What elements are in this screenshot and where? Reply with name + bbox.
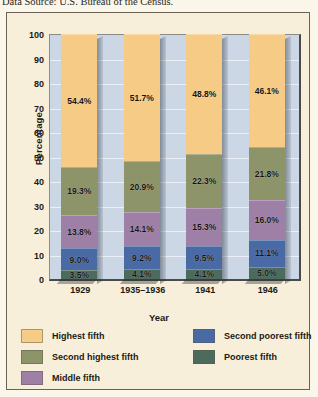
y-tick-0: 0	[39, 275, 44, 285]
bar-segment: 54.4%	[61, 34, 97, 167]
data-source-note: Data Source: U.S. Bureau of the Census.	[2, 0, 302, 10]
bar-segment: 9.5%	[186, 246, 222, 269]
bar-segment: 4.1%	[186, 269, 222, 279]
bar-segment: 9.2%	[124, 246, 160, 269]
bar-value-label: 54.4%	[67, 97, 91, 106]
legend-swatch	[21, 329, 43, 343]
bar-segment: 21.8%	[249, 147, 285, 200]
y-tick-100: 100	[29, 30, 44, 40]
bar-value-label: 9.2%	[132, 254, 151, 263]
bar-value-label: 14.1%	[130, 225, 154, 234]
bar-value-label: 20.9%	[130, 183, 154, 192]
bar-1935-1936[interactable]: 4.1%9.2%14.1%20.9%51.7%	[124, 34, 160, 279]
legend-swatch	[21, 371, 43, 385]
y-axis-ticklabels: 0102030405060708090100	[7, 34, 49, 281]
plot-area: 3.5%9.0%13.8%19.3%54.4%4.1%9.2%14.1%20.9…	[49, 34, 301, 281]
legend: Highest fifthSecond highest fifthMiddle …	[21, 326, 301, 384]
bar-value-label: 13.8%	[67, 228, 91, 237]
bar-group: 3.5%9.0%13.8%19.3%54.4%4.1%9.2%14.1%20.9…	[50, 35, 299, 279]
legend-swatch	[193, 350, 215, 364]
bar-value-label: 5.0%	[257, 269, 276, 278]
bar-segment: 4.1%	[124, 269, 160, 279]
legend-label: Second highest fifth	[52, 352, 139, 362]
y-tick-60: 60	[34, 128, 44, 138]
x-tick-label: 1946	[258, 285, 278, 295]
bar-1946[interactable]: 5.0%11.1%16.0%21.8%46.1%	[249, 34, 285, 279]
figure-frame: Percentage 0102030405060708090100 3.5%9.…	[6, 12, 310, 390]
legend-swatch	[21, 350, 43, 364]
bar-value-label: 15.3%	[192, 223, 216, 232]
legend-swatch	[193, 329, 215, 343]
y-tick-30: 30	[34, 202, 44, 212]
legend-label: Middle fifth	[52, 373, 100, 383]
legend-label: Poorest fifth	[224, 352, 277, 362]
bar-value-label: 4.1%	[195, 270, 214, 279]
bar-segment: 13.8%	[61, 215, 97, 249]
bar-value-label: 3.5%	[70, 271, 89, 280]
legend-item[interactable]: Middle fifth	[21, 368, 139, 387]
bar-segment: 9.0%	[61, 248, 97, 270]
bar-value-label: 46.1%	[255, 87, 279, 96]
bar-value-label: 4.1%	[132, 270, 151, 279]
y-tick-50: 50	[34, 153, 44, 163]
bar-segment: 22.3%	[186, 154, 222, 209]
x-tick-label: 1929	[70, 285, 90, 295]
y-tick-40: 40	[34, 177, 44, 187]
bar-segment: 15.3%	[186, 208, 222, 245]
bar-segment: 48.8%	[186, 34, 222, 154]
legend-item[interactable]: Second poorest fifth	[193, 326, 312, 345]
bar-value-label: 19.3%	[67, 187, 91, 196]
y-tick-90: 90	[34, 55, 44, 65]
bar-value-label: 9.0%	[70, 256, 89, 265]
bar-segment: 3.5%	[61, 270, 97, 279]
bar-value-label: 9.5%	[195, 254, 214, 263]
bar-1929[interactable]: 3.5%9.0%13.8%19.3%54.4%	[61, 34, 97, 279]
y-tick-80: 80	[34, 79, 44, 89]
bar-value-label: 16.0%	[255, 216, 279, 225]
legend-column-left: Highest fifthSecond highest fifthMiddle …	[21, 326, 139, 389]
x-axis-title: Year	[7, 312, 311, 323]
bar-value-label: 48.8%	[192, 90, 216, 99]
bar-value-label: 11.1%	[255, 249, 279, 258]
legend-item[interactable]: Second highest fifth	[21, 347, 139, 366]
y-tick-10: 10	[34, 251, 44, 261]
bar-value-label: 22.3%	[192, 177, 216, 186]
legend-item[interactable]: Highest fifth	[21, 326, 139, 345]
bar-value-label: 51.7%	[130, 94, 154, 103]
legend-column-right: Second poorest fifthPoorest fifth	[193, 326, 312, 368]
x-tick-label: 1941	[195, 285, 215, 295]
bar-segment: 19.3%	[61, 167, 97, 214]
bar-segment: 20.9%	[124, 161, 160, 212]
legend-label: Second poorest fifth	[224, 331, 312, 341]
bar-value-label: 21.8%	[255, 170, 279, 179]
bar-segment: 11.1%	[249, 240, 285, 267]
bar-segment: 5.0%	[249, 267, 285, 279]
x-tick-label: 1935–1936	[120, 285, 165, 295]
bar-segment: 46.1%	[249, 34, 285, 147]
chart-figure: Data Source: U.S. Bureau of the Census. …	[0, 0, 318, 397]
bar-segment: 51.7%	[124, 34, 160, 161]
legend-label: Highest fifth	[52, 331, 105, 341]
bar-segment: 14.1%	[124, 212, 160, 247]
legend-item[interactable]: Poorest fifth	[193, 347, 312, 366]
y-tick-20: 20	[34, 226, 44, 236]
y-tick-70: 70	[34, 104, 44, 114]
bar-1941[interactable]: 4.1%9.5%15.3%22.3%48.8%	[186, 34, 222, 279]
x-axis-ticklabels: 19291935–193619411946	[49, 285, 301, 299]
bar-segment: 16.0%	[249, 200, 285, 239]
